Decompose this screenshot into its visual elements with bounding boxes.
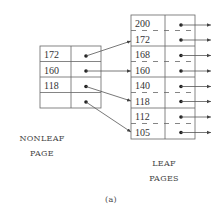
nonleaf-to-leaf-arrows [86,41,131,132]
arrow-icon [86,41,131,56]
figure-caption: (a) [96,195,126,204]
nonleaf-label-line2: PAGE [6,149,78,158]
leaf-key: 160 [135,65,150,76]
nonleaf-key: 118 [44,80,59,91]
arrow-icon [86,102,131,132]
nonleaf-key: 172 [44,49,59,60]
leaf-keys: 200 172 168 160 140 118 112 105 [135,18,150,138]
arrow-icon [86,87,131,102]
leaf-key: 168 [135,49,150,60]
leaf-key: 140 [135,80,150,91]
leaf-key: 200 [135,18,150,29]
nonleaf-keys: 172 160 118 [44,49,59,91]
leaf-key: 112 [135,111,150,122]
leaf-key: 118 [135,96,150,107]
leaf-key: 105 [135,127,150,138]
nonleaf-key: 160 [44,65,59,76]
nonleaf-label-line1: NONLEAF [6,134,78,143]
leaf-key: 172 [135,34,150,45]
leaf-label-line1: LEAF [128,159,200,168]
leaf-label-line2: PAGES [128,174,200,183]
